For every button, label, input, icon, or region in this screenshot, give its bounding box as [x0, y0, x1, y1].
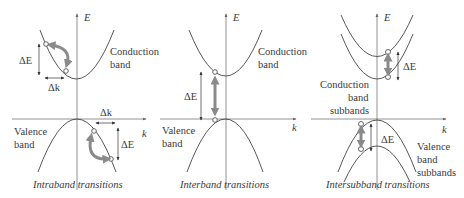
- electron-state: [386, 50, 391, 55]
- valence-band-curve: [187, 119, 263, 172]
- energy-axis-label: E: [232, 12, 240, 23]
- caption-intraband: Intraband transitions: [32, 179, 123, 190]
- delta-k-label: Δk: [100, 107, 113, 118]
- electron-state: [44, 42, 49, 47]
- momentum-axis-label: k: [142, 128, 147, 139]
- valence-subbands-label-line3: subbands: [417, 167, 456, 178]
- energy-axis-label: E: [383, 12, 391, 23]
- delta-e-label: ΔE: [19, 55, 32, 66]
- conduction-subbands-label-line3: subbands: [330, 105, 369, 116]
- valence-band-label-line1: Valence: [14, 126, 48, 137]
- valence-subbands-label-line1: Valence: [417, 141, 451, 152]
- conduction-band-label-line1: Conduction: [110, 46, 160, 57]
- caption-interband: Interband transitions: [179, 179, 269, 190]
- hole-state: [109, 157, 114, 162]
- hole-state: [213, 118, 218, 123]
- hole-state: [92, 129, 97, 134]
- valence-band-label-line1: Valence: [162, 125, 196, 136]
- valence-subbands-label-line2: band: [417, 154, 438, 165]
- panel-interband: E k Conduction band Valence band ΔE Inte…: [160, 12, 308, 190]
- conduction-band-label-line2: band: [258, 59, 279, 70]
- hole-state: [359, 147, 364, 152]
- delta-e-label: ΔE: [184, 91, 197, 102]
- conduction-subbands-label-line2: band: [348, 92, 369, 103]
- momentum-axis-label: k: [442, 124, 447, 135]
- conduction-band-label-line1: Conduction: [258, 46, 308, 57]
- delta-k-label: Δk: [48, 82, 61, 93]
- hole-state: [359, 122, 364, 127]
- valence-band-label-line2: band: [14, 139, 35, 150]
- panel-intersubband: E k ΔE Conduction band subbands ΔE Valen…: [311, 12, 456, 190]
- band-transition-diagram: E k Conduction band Valence band ΔE Δk Δ…: [0, 0, 464, 198]
- caption-intersubband: Intersubband transitions: [325, 179, 430, 190]
- delta-e-label: ΔE: [403, 61, 416, 72]
- transition-arrow: [90, 137, 107, 159]
- delta-e-label: ΔE: [381, 134, 394, 145]
- energy-axis-label: E: [83, 12, 91, 23]
- electron-state: [386, 75, 391, 80]
- panel-intraband: E k Conduction band Valence band ΔE Δk Δ…: [12, 12, 160, 190]
- conduction-band-label-line2: band: [110, 59, 131, 70]
- conduction-band-curve: [189, 30, 262, 76]
- electron-state: [64, 69, 69, 74]
- electron-state: [213, 70, 218, 75]
- momentum-axis-label: k: [292, 122, 297, 133]
- delta-e-label: ΔE: [121, 139, 134, 150]
- conduction-subbands-label-line1: Conduction: [320, 79, 370, 90]
- valence-band-label-line2: band: [162, 138, 183, 149]
- transition-arrow: [51, 45, 68, 64]
